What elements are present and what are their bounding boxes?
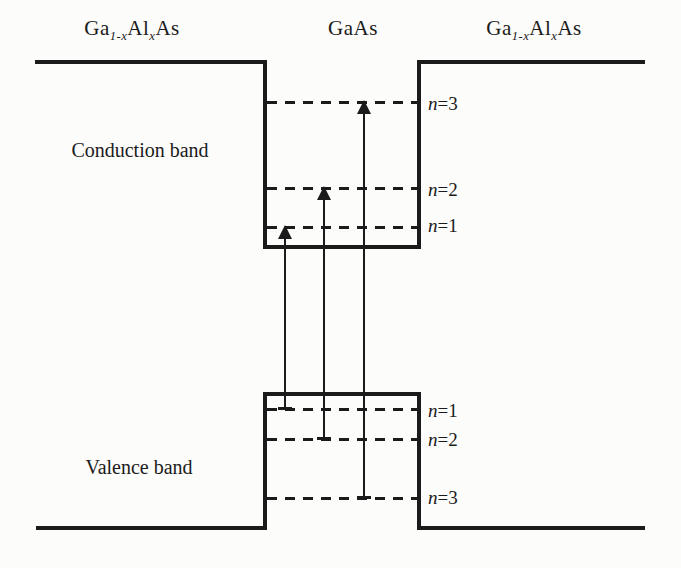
transition-n2-arrowhead-icon bbox=[317, 186, 331, 200]
transition-n3-arrow-shaft bbox=[363, 111, 365, 499]
transition-n3-arrowhead-icon bbox=[357, 100, 371, 114]
level-label-conduction-n2: n=2 bbox=[428, 179, 498, 201]
level-value: =2 bbox=[438, 429, 458, 450]
material-center-text: GaAs bbox=[328, 16, 378, 40]
level-label-valence-n3: n=3 bbox=[428, 487, 498, 509]
conduction-level-n3-line bbox=[267, 101, 417, 104]
conduction-well-wall-right bbox=[417, 60, 421, 249]
transition-n2-arrow-shaft bbox=[323, 197, 325, 440]
valence-well-wall-right bbox=[417, 392, 421, 530]
valence-level-n2-line bbox=[267, 438, 417, 441]
conduction-level-n2-line bbox=[267, 187, 417, 190]
material-right-mid: Al bbox=[529, 16, 551, 40]
valence-level-n3-line bbox=[267, 497, 417, 500]
level-value: =1 bbox=[438, 215, 458, 236]
level-value: =2 bbox=[438, 179, 458, 200]
material-right-sub1: 1-x bbox=[512, 29, 530, 43]
material-label-right: Ga1-xAlxAs bbox=[474, 16, 594, 41]
level-value: =3 bbox=[438, 487, 458, 508]
level-label-valence-n2: n=2 bbox=[428, 429, 498, 451]
material-right-post: As bbox=[557, 16, 581, 40]
material-left-base: Ga bbox=[84, 16, 110, 40]
valence-band-edge-left bbox=[36, 526, 267, 530]
level-var: n bbox=[428, 400, 438, 421]
level-label-conduction-n3: n=3 bbox=[428, 93, 498, 115]
level-var: n bbox=[428, 429, 438, 450]
transition-n1-arrowhead-icon bbox=[278, 225, 292, 239]
level-label-valence-n1: n=1 bbox=[428, 400, 498, 422]
valence-band-label: Valence band bbox=[54, 456, 224, 479]
material-left-post: As bbox=[155, 16, 179, 40]
valence-well-top bbox=[263, 392, 421, 396]
material-label-center: GaAs bbox=[293, 16, 413, 41]
level-value: =3 bbox=[438, 93, 458, 114]
level-var: n bbox=[428, 487, 438, 508]
conduction-band-label: Conduction band bbox=[55, 139, 225, 162]
level-value: =1 bbox=[438, 400, 458, 421]
level-var: n bbox=[428, 93, 438, 114]
material-label-left: Ga1-xAlxAs bbox=[72, 16, 192, 41]
conduction-well-wall-left bbox=[263, 60, 267, 249]
level-var: n bbox=[428, 179, 438, 200]
conduction-band-edge-left bbox=[35, 60, 267, 64]
quantum-well-band-diagram: Ga1-xAlxAs GaAs Ga1-xAlxAs Conduction ba… bbox=[0, 0, 681, 568]
material-left-mid: Al bbox=[127, 16, 149, 40]
valence-band-edge-right bbox=[417, 526, 645, 530]
level-var: n bbox=[428, 215, 438, 236]
material-left-sub1: 1-x bbox=[110, 29, 128, 43]
conduction-band-edge-right bbox=[417, 60, 645, 64]
level-label-conduction-n1: n=1 bbox=[428, 215, 498, 237]
valence-well-wall-left bbox=[263, 392, 267, 530]
transition-n1-arrow-shaft bbox=[284, 236, 286, 409]
conduction-well-bottom bbox=[263, 245, 421, 249]
material-right-base: Ga bbox=[486, 16, 512, 40]
